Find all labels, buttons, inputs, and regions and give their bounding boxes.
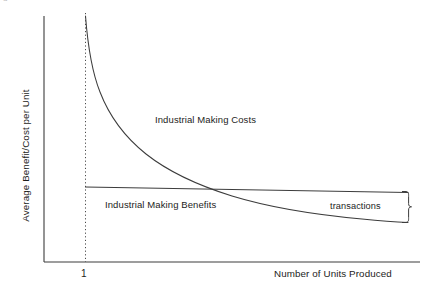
transactions-brace <box>406 192 412 223</box>
industrial-making-costs-label: Industrial Making Costs <box>155 114 256 125</box>
industrial-making-benefits-line <box>86 187 409 193</box>
chart-svg <box>0 0 428 292</box>
transactions-label: transactions <box>330 201 381 211</box>
x-tick-label-1: 1 <box>81 268 87 279</box>
figure-container: g Average Benefit/Cost per Unit Number o… <box>0 0 428 292</box>
x-axis-title: Number of Units Produced <box>274 268 392 279</box>
y-axis-title: Average Benefit/Cost per Unit <box>20 81 31 231</box>
industrial-making-benefits-label: Industrial Making Benefits <box>105 199 216 210</box>
